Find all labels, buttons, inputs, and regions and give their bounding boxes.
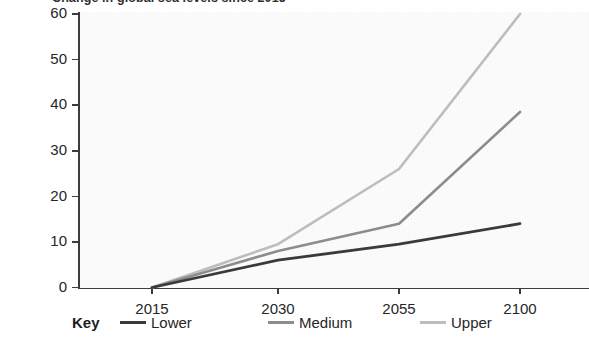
series-layer (78, 12, 589, 289)
y-axis-tick-label: 0 (59, 277, 67, 297)
chart-title-text: Change in global sea levels since 2015 (52, 0, 286, 5)
legend-item-upper: Upper (420, 314, 492, 334)
y-axis-tick-label: 30 (50, 140, 67, 160)
chart-title-clipped: Change in global sea levels since 2015 (0, 0, 589, 5)
plot-area: 0102030405060 2015203020552100 (78, 12, 589, 289)
series-line-medium (152, 112, 520, 288)
legend-item-medium: Medium (268, 314, 352, 334)
legend-swatch-lower (120, 321, 146, 324)
y-axis-tick-label: 50 (50, 49, 67, 69)
series-line-lower (152, 224, 520, 288)
legend-label-lower: Lower (151, 314, 192, 331)
legend-swatch-upper (420, 321, 446, 324)
y-axis-tick-label: 20 (50, 186, 67, 206)
chart-legend: Key Lower Medium Upper (0, 314, 589, 338)
legend-key-word: Key (72, 314, 100, 331)
legend-label-medium: Medium (299, 314, 352, 331)
legend-item-lower: Lower (120, 314, 192, 334)
chart-figure: Change in global sea levels since 2015 0… (0, 0, 589, 342)
series-line-upper (152, 14, 520, 288)
legend-label-upper: Upper (451, 314, 492, 331)
legend-swatch-medium (268, 321, 294, 324)
y-axis-tick-label: 10 (50, 231, 67, 251)
y-axis-tick-label: 40 (50, 94, 67, 114)
y-axis-tick-label: 60 (50, 3, 67, 23)
